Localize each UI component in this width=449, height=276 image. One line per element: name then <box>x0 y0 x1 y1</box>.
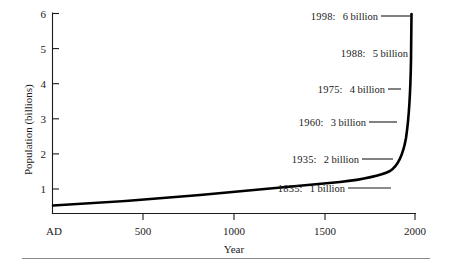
annotation-1960-value: 3 billion <box>331 117 366 128</box>
annotation-1960: 1960:3 billion <box>246 117 366 128</box>
y-tick-label-1: 1 <box>30 184 46 195</box>
annotation-1975: 1975:4 billion <box>265 84 385 95</box>
y-tick-label-6: 6 <box>30 8 46 19</box>
population-growth-chart: 6 5 4 3 2 1 AD 500 1000 1500 2000 Year P… <box>0 0 449 276</box>
y-tick-label-5: 5 <box>30 43 46 54</box>
x-tick-label-1500: 1500 <box>314 226 336 237</box>
x-tick-label-2000: 2000 <box>404 226 426 237</box>
annotation-1935: 1935:2 billion <box>239 154 359 165</box>
annotation-1835: 1835:1 billion <box>225 183 345 194</box>
annotation-1975-year: 1975: <box>318 84 343 95</box>
annotation-1975-value: 4 billion <box>350 84 385 95</box>
annotation-1935-year: 1935: <box>292 154 317 165</box>
annotation-1960-year: 1960: <box>299 117 324 128</box>
y-axis <box>53 13 60 214</box>
annotation-1988-value: 5 billion <box>373 48 408 59</box>
x-tick-label-500: 500 <box>135 226 152 237</box>
x-axis-title: Year <box>224 243 244 255</box>
annotation-1935-value: 2 billion <box>324 154 359 165</box>
x-axis <box>53 214 416 221</box>
annotation-1835-year: 1835: <box>278 183 303 194</box>
annotation-1988: 1988:5 billion <box>288 48 408 59</box>
x-tick-label-1000: 1000 <box>223 226 245 237</box>
x-origin-label-ad: AD <box>46 226 62 237</box>
population-curve <box>53 14 412 206</box>
annotation-1998-value: 6 billion <box>343 11 378 22</box>
annotation-1998-year: 1998: <box>311 11 336 22</box>
annotation-1988-year: 1988: <box>341 48 366 59</box>
annotation-1998: 1998:6 billion <box>258 11 378 22</box>
y-axis-title: Population (billions) <box>22 84 34 175</box>
annotation-1835-value: 1 billion <box>310 183 345 194</box>
